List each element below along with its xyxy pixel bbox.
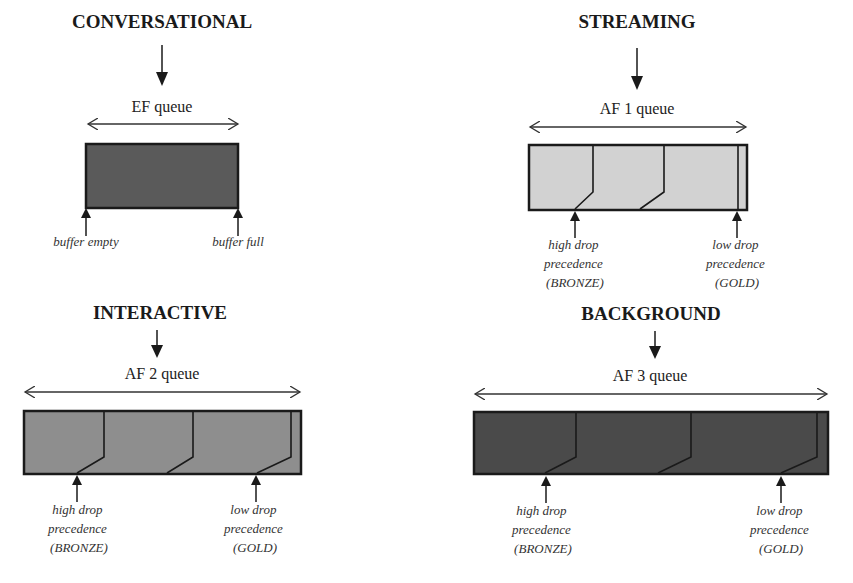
up-arrow-icon xyxy=(81,208,91,236)
af2-queue-buffer xyxy=(24,411,301,474)
panel-title: CONVERSATIONAL xyxy=(72,11,252,32)
qos-queue-diagram: CONVERSATIONAL EF queue buffer empty buf… xyxy=(0,0,853,583)
up-arrow-icon xyxy=(233,208,243,236)
up-arrow-icon xyxy=(72,475,82,502)
high-drop-precedence-label: high drop precedence (BRONZE) xyxy=(47,502,110,555)
low-drop-precedence-label: low drop precedence (GOLD) xyxy=(749,503,812,556)
panel-title: BACKGROUND xyxy=(581,303,720,324)
down-arrow-icon xyxy=(151,330,163,358)
panel-interactive: INTERACTIVE AF 2 queue high drop precede… xyxy=(24,302,301,555)
queue-label: AF 3 queue xyxy=(613,367,688,385)
up-arrow-icon xyxy=(541,476,551,503)
high-drop-precedence-label: high drop precedence (BRONZE) xyxy=(543,237,606,290)
up-arrow-icon xyxy=(570,211,580,238)
panel-background: BACKGROUND AF 3 queue high drop preceden… xyxy=(474,303,828,556)
queue-label: AF 2 queue xyxy=(125,365,200,383)
panel-conversational: CONVERSATIONAL EF queue buffer empty buf… xyxy=(53,11,264,249)
buffer-empty-label: buffer empty xyxy=(53,234,119,249)
low-drop-precedence-label: low drop precedence (GOLD) xyxy=(705,237,768,290)
af3-queue-buffer xyxy=(474,412,828,474)
down-arrow-icon xyxy=(649,331,661,359)
af1-queue-buffer xyxy=(529,145,747,210)
low-drop-precedence-label: low drop precedence (GOLD) xyxy=(223,502,286,555)
panel-title: STREAMING xyxy=(578,11,695,32)
panel-streaming: STREAMING AF 1 queue high drop precedenc… xyxy=(529,11,768,290)
down-arrow-icon xyxy=(631,48,643,90)
up-arrow-icon xyxy=(776,476,786,503)
high-drop-precedence-label: high drop precedence (BRONZE) xyxy=(511,503,574,556)
ef-queue-buffer xyxy=(86,144,238,208)
down-arrow-icon xyxy=(156,45,168,86)
buffer-full-label: buffer full xyxy=(212,234,264,249)
panel-title: INTERACTIVE xyxy=(93,302,227,323)
up-arrow-icon xyxy=(732,211,742,238)
up-arrow-icon xyxy=(251,475,261,502)
queue-label: EF queue xyxy=(132,98,193,116)
queue-label: AF 1 queue xyxy=(600,100,675,118)
